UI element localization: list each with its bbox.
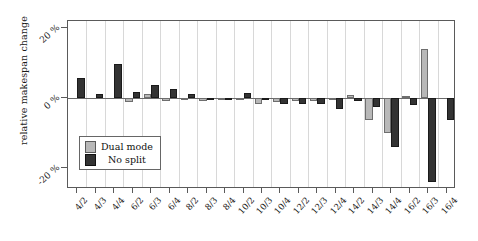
bar <box>133 92 140 98</box>
x-axis-tick <box>95 188 96 193</box>
bar <box>299 98 306 104</box>
x-axis-tick <box>372 188 373 193</box>
y-axis-tick-label: -20 % <box>12 162 62 208</box>
bar <box>347 95 354 98</box>
gridline <box>382 21 383 187</box>
x-axis-tick <box>76 188 77 193</box>
gridline <box>308 21 309 187</box>
bar <box>421 49 428 98</box>
bar <box>391 98 398 147</box>
gridline <box>327 21 328 187</box>
chart-root: relative makespan change 20 %0 %-20 % Du… <box>0 0 478 241</box>
gridline <box>364 21 365 187</box>
plot-area: Dual mode No split <box>67 20 455 188</box>
x-axis-tick <box>279 188 280 193</box>
x-axis-tick <box>427 188 428 193</box>
bar <box>402 96 409 98</box>
bar <box>244 93 251 98</box>
x-axis-tick <box>409 188 410 193</box>
bar <box>262 98 269 100</box>
bar <box>170 89 177 98</box>
bar <box>77 78 84 98</box>
gridline <box>290 21 291 187</box>
x-axis-tick <box>316 188 317 193</box>
bar <box>447 98 454 120</box>
legend-item-no-split: No split <box>85 153 153 166</box>
bar <box>373 98 380 107</box>
x-axis-tick <box>243 188 244 193</box>
x-axis-tick <box>446 188 447 193</box>
bar <box>218 98 225 100</box>
bar <box>365 98 372 120</box>
legend-label-dual-mode: Dual mode <box>101 140 153 153</box>
x-axis-tick <box>150 188 151 193</box>
gridline <box>234 21 235 187</box>
legend-label-no-split: No split <box>101 153 146 166</box>
bar <box>336 98 343 109</box>
x-axis-tick <box>206 188 207 193</box>
x-axis-tick <box>169 188 170 193</box>
bar <box>273 98 280 102</box>
bar <box>384 98 391 133</box>
gridline <box>345 21 346 187</box>
bar <box>125 98 132 102</box>
x-axis-tick <box>261 188 262 193</box>
gridline <box>401 21 402 187</box>
bar <box>280 98 287 104</box>
bar <box>96 94 103 98</box>
gridline <box>197 21 198 187</box>
x-axis-tick <box>298 188 299 193</box>
bar <box>162 98 169 101</box>
x-axis-tick <box>113 188 114 193</box>
bar <box>236 98 243 100</box>
bar <box>428 98 435 182</box>
x-axis-tick <box>335 188 336 193</box>
bar <box>354 98 361 101</box>
legend-item-dual-mode: Dual mode <box>85 140 153 153</box>
bar <box>181 98 188 100</box>
legend-swatch-dual-mode-icon <box>85 141 96 153</box>
bar <box>151 85 158 98</box>
bar <box>199 98 206 101</box>
bar <box>114 64 121 98</box>
x-axis-tick <box>224 188 225 193</box>
bar <box>317 98 324 104</box>
legend: Dual mode No split <box>79 136 161 170</box>
bar <box>329 98 336 100</box>
x-axis-tick <box>187 188 188 193</box>
bar <box>310 98 317 101</box>
bar <box>207 98 214 100</box>
bar <box>292 98 299 101</box>
gridline <box>271 21 272 187</box>
x-axis-tick <box>132 188 133 193</box>
gridline <box>438 21 439 187</box>
gridline <box>253 21 254 187</box>
bar <box>144 94 151 98</box>
x-axis-tick <box>390 188 391 193</box>
legend-swatch-no-split-icon <box>85 154 96 166</box>
bar <box>410 98 417 105</box>
gridline <box>179 21 180 187</box>
y-axis-title: relative makespan change <box>18 0 29 166</box>
gridline <box>419 21 420 187</box>
bar <box>188 94 195 98</box>
x-axis-tick <box>353 188 354 193</box>
bar <box>255 98 262 104</box>
bar <box>225 98 232 100</box>
gridline <box>216 21 217 187</box>
